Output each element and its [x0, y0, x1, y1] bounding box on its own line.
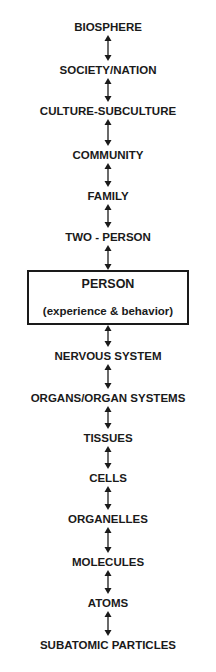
level-biosphere: BIOSPHERE — [0, 20, 216, 34]
level-tissues: TISSUES — [0, 431, 216, 445]
double-headed-arrow-icon — [104, 245, 112, 270]
level-subatomic-particles: SUBATOMIC PARTICLES — [0, 638, 216, 652]
level-nervous-system: NERVOUS SYSTEM — [0, 349, 216, 363]
level-cells: CELLS — [0, 471, 216, 485]
level-culture-subculture: CULTURE-SUBCULTURE — [0, 104, 216, 118]
level-molecules: MOLECULES — [0, 555, 216, 569]
double-headed-arrow-icon — [104, 364, 112, 389]
level-person: PERSON — [29, 277, 187, 292]
person-sublabel: (experience & behavior) — [29, 304, 187, 319]
double-headed-arrow-icon — [104, 406, 112, 429]
double-headed-arrow-icon — [104, 527, 112, 553]
double-headed-arrow-icon — [104, 204, 112, 228]
double-headed-arrow-icon — [104, 325, 112, 347]
double-headed-arrow-icon — [104, 78, 112, 102]
double-headed-arrow-icon — [104, 446, 112, 469]
double-headed-arrow-icon — [104, 163, 112, 187]
level-two-person: TWO - PERSON — [0, 230, 216, 244]
double-headed-arrow-icon — [104, 570, 112, 594]
level-family: FAMILY — [0, 189, 216, 203]
level-atoms: ATOMS — [0, 596, 216, 610]
level-organelles: ORGANELLES — [0, 512, 216, 526]
double-headed-arrow-icon — [104, 611, 112, 636]
double-headed-arrow-icon — [104, 119, 112, 146]
level-organs-organ-systems: ORGANS/ORGAN SYSTEMS — [0, 391, 216, 405]
level-community: COMMUNITY — [0, 148, 216, 162]
level-society-nation: SOCIETY/NATION — [0, 63, 216, 77]
double-headed-arrow-icon — [104, 35, 112, 61]
double-headed-arrow-icon — [104, 486, 112, 510]
person-focus-box: PERSON (experience & behavior) — [27, 270, 189, 325]
